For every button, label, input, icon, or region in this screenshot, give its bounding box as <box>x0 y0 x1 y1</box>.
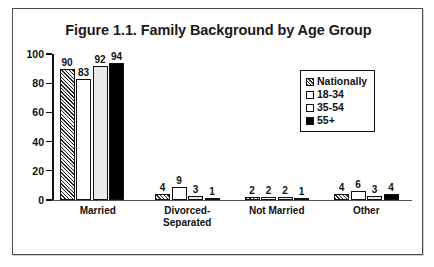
legend-item[interactable]: 18-34 <box>306 88 367 101</box>
y-axis-tick <box>46 53 52 54</box>
bar-value-label: 83 <box>78 68 89 78</box>
bar-value-label: 4 <box>388 183 394 193</box>
bar-value-label: 3 <box>372 185 378 195</box>
bar[interactable]: 9 <box>172 187 187 200</box>
x-axis-category-label-line: Separated <box>131 217 245 229</box>
y-axis-tick <box>46 83 52 84</box>
bar-value-label: 2 <box>249 186 255 196</box>
bar-group: 4931 <box>155 54 220 200</box>
bar[interactable]: 2 <box>261 197 276 200</box>
y-axis-tick <box>46 141 52 142</box>
legend-item[interactable]: 55+ <box>306 114 367 127</box>
legend-item[interactable]: Nationally <box>306 75 367 88</box>
y-axis-tick-label: 80 <box>16 78 44 89</box>
y-axis-tick-label: 100 <box>16 49 44 60</box>
bar[interactable]: 4 <box>155 194 170 200</box>
legend-item-label: 18-34 <box>317 89 344 100</box>
bar-group-bars: 4931 <box>155 54 220 200</box>
legend-item-label: 35-54 <box>317 102 344 113</box>
bar[interactable]: 4 <box>334 194 349 200</box>
bar-value-label: 9 <box>176 176 182 186</box>
figure-frame: Figure 1.1. Family Background by Age Gro… <box>12 8 423 255</box>
y-axis-tick <box>46 199 52 200</box>
legend-swatch-icon <box>306 91 314 99</box>
y-axis-tick <box>46 170 52 171</box>
y-axis-tick-label: 20 <box>16 166 44 177</box>
bar-value-label: 3 <box>193 185 199 195</box>
bar[interactable]: 83 <box>76 79 91 200</box>
bar-group: 90839294 <box>60 54 125 200</box>
bar-value-label: 4 <box>160 183 166 193</box>
bar-value-label: 1 <box>209 187 215 197</box>
bar[interactable]: 3 <box>188 196 203 200</box>
legend-item-label: Nationally <box>317 76 367 87</box>
bar[interactable]: 4 <box>384 194 399 200</box>
y-axis-tick <box>46 112 52 113</box>
bar[interactable]: 2 <box>245 197 260 200</box>
chart-title: Figure 1.1. Family Background by Age Gro… <box>13 22 424 38</box>
bar[interactable]: 94 <box>109 63 124 200</box>
bar[interactable]: 2 <box>278 197 293 200</box>
bar-value-label: 4 <box>339 183 345 193</box>
bar[interactable]: 6 <box>351 191 366 200</box>
legend-item[interactable]: 35-54 <box>306 101 367 114</box>
bar-value-label: 94 <box>111 52 122 62</box>
bar[interactable]: 90 <box>60 69 75 200</box>
legend-item-label: 55+ <box>317 115 335 126</box>
y-axis-tick-label: 0 <box>16 195 44 206</box>
figure-root: Figure 1.1. Family Background by Age Gro… <box>0 0 434 267</box>
chart-legend: Nationally18-3435-5455+ <box>300 70 375 132</box>
legend-swatch-icon <box>306 104 314 112</box>
bar-value-label: 6 <box>355 180 361 190</box>
bar-value-label: 1 <box>299 187 305 197</box>
bar[interactable]: 1 <box>294 198 309 200</box>
legend-swatch-icon <box>306 78 314 86</box>
bar[interactable]: 1 <box>205 198 220 200</box>
bar-value-label: 2 <box>282 186 288 196</box>
bar-value-label: 92 <box>94 55 105 65</box>
y-axis-tick-label: 40 <box>16 137 44 148</box>
y-axis-labels: 020406080100 <box>13 9 44 256</box>
bar-value-label: 2 <box>266 186 272 196</box>
x-axis-category-label-line: Other <box>310 205 424 217</box>
bar[interactable]: 3 <box>367 196 382 200</box>
x-axis-category-label: Other <box>310 205 424 217</box>
bar-value-label: 90 <box>61 58 72 68</box>
legend-swatch-icon <box>306 117 314 125</box>
y-axis-tick-label: 60 <box>16 107 44 118</box>
bar-group-bars: 90839294 <box>60 54 125 200</box>
bar[interactable]: 92 <box>93 66 108 200</box>
